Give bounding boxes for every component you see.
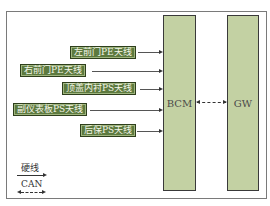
arrowhead-right-icon <box>42 190 46 194</box>
bcm-label: BCM <box>167 98 192 109</box>
arrowhead-right-icon <box>223 100 227 104</box>
antenna-left-front-door-pe: 左前门PE天线 <box>70 46 136 59</box>
legend-can-line <box>21 192 42 193</box>
hardwire-line <box>140 89 160 90</box>
bcm-module: BCM <box>163 15 196 191</box>
gw-label: GW <box>234 98 252 109</box>
legend-hardwire-line <box>17 175 44 176</box>
can-bus-line <box>197 102 226 103</box>
legend-hardwire-label: 硬线 <box>21 161 39 174</box>
antenna-roof-lining-ps: 顶盖内衬PS天线 <box>62 82 136 95</box>
antenna-right-front-door-pe: 右前门PE天线 <box>20 64 86 77</box>
arrowhead-left-icon <box>196 100 200 104</box>
gw-module: GW <box>227 15 259 191</box>
hardwire-line <box>92 71 160 72</box>
legend-can-label: CAN <box>21 179 42 189</box>
arrowhead-icon <box>43 173 47 177</box>
hardwire-line <box>137 131 160 132</box>
hardwire-line <box>90 110 160 111</box>
arrowhead-left-icon <box>17 190 21 194</box>
antenna-rear-bumper-ps: 后保PS天线 <box>80 124 136 137</box>
hardwire-line <box>138 52 160 53</box>
antenna-console-ps: 副仪表板PS天线 <box>13 103 87 116</box>
